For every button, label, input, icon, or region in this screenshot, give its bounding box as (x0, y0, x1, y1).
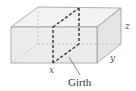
girth-caption: Girth (68, 76, 92, 88)
label-x: x (49, 65, 54, 75)
box-front-face (11, 27, 97, 63)
box-diagram: x y z Girth (0, 0, 136, 91)
label-z: z (124, 21, 130, 31)
label-y: y (109, 53, 116, 63)
